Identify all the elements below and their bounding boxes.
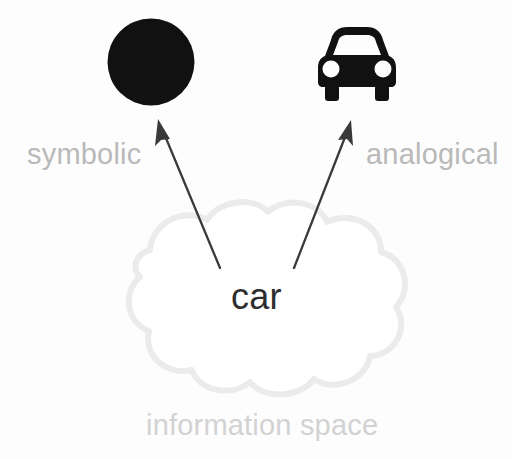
filled-circle-icon [108, 19, 195, 106]
label-analogical: analogical [366, 140, 499, 169]
label-information-space: information space [146, 411, 378, 440]
diagram-canvas: symbolic analogical car information spac… [0, 0, 512, 459]
car-icon [318, 27, 396, 101]
diagram-vector-layer [0, 0, 512, 459]
label-symbolic: symbolic [27, 140, 141, 169]
label-concept-car: car [231, 279, 282, 315]
